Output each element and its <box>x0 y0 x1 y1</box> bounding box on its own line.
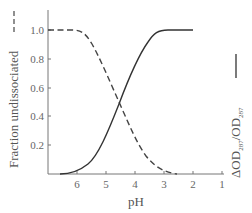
x-tick-label: 6 <box>74 178 80 190</box>
y-tick-label: 0.2 <box>30 139 44 151</box>
x-tick-label: 2 <box>190 178 196 190</box>
x-tick-labels: 6 5 4 3 2 1 <box>74 178 225 190</box>
x-tick-label: 3 <box>161 178 167 190</box>
y-axis-label-left-text: Fraction undissociated <box>6 50 21 168</box>
delta-od-curve <box>60 30 193 174</box>
y-tick-label: 0.4 <box>30 110 44 122</box>
y-axis-label-right: ΔOD287/OD287 <box>228 54 245 178</box>
y-tick-label: 0.8 <box>30 53 44 65</box>
y-tick-labels: 0.2 0.4 0.6 0.8 1.0 <box>30 24 44 151</box>
fraction-undissociated-curve <box>48 30 177 174</box>
chart: 0.2 0.4 0.6 0.8 1.0 6 5 4 3 2 1 pH Fract… <box>0 0 252 213</box>
y-tick-label: 0.6 <box>30 82 44 94</box>
x-axis-label: pH <box>128 194 144 209</box>
y-axis-label-left: Fraction undissociated <box>6 8 21 168</box>
x-tick-label: 4 <box>132 178 138 190</box>
y-tick-label: 1.0 <box>30 24 44 36</box>
x-tick-label: 1 <box>219 178 225 190</box>
x-tick-label: 5 <box>103 178 109 190</box>
y-axis-label-right-text: ΔOD287/OD287 <box>228 107 245 178</box>
